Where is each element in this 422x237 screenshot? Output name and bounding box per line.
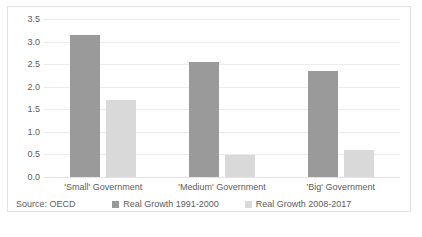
chart-legend: Real Growth 1991-2000Real Growth 2008-20… (76, 200, 402, 209)
bar[interactable] (106, 100, 136, 177)
bar[interactable] (344, 150, 374, 177)
x-tick-label: 'Big' Government (281, 179, 400, 195)
plot-wrapper: 0.00.51.01.52.02.53.03.5 'Small' Governm… (8, 7, 410, 211)
bar[interactable] (225, 155, 255, 177)
y-tick-label: 1.0 (14, 127, 40, 136)
y-tick-label: 1.5 (14, 105, 40, 114)
legend-item[interactable]: Real Growth 2008-2017 (245, 200, 352, 209)
bar[interactable] (308, 71, 338, 177)
bar-group (163, 19, 282, 177)
bar-group (44, 19, 163, 177)
y-tick-label: 0.0 (14, 173, 40, 182)
legend-swatch-icon (112, 201, 119, 208)
legend-item[interactable]: Real Growth 1991-2000 (112, 200, 219, 209)
x-axis: 'Small' Government'Medium' Government'Bi… (44, 179, 400, 195)
plot-area (44, 19, 400, 177)
y-tick-label: 3.0 (14, 37, 40, 46)
legend-label: Real Growth 1991-2000 (123, 200, 219, 209)
chart-container: 0.00.51.01.52.02.53.03.5 'Small' Governm… (7, 6, 411, 212)
chart-footer: Source: OECD Real Growth 1991-2000Real G… (16, 196, 402, 212)
source-note: Source: OECD (16, 199, 76, 209)
y-tick-label: 0.5 (14, 150, 40, 159)
y-tick-label: 2.5 (14, 60, 40, 69)
bar-group (281, 19, 400, 177)
legend-swatch-icon (245, 201, 252, 208)
y-tick-label: 3.5 (14, 15, 40, 24)
y-tick-label: 2.0 (14, 82, 40, 91)
x-tick-label: 'Medium' Government (163, 179, 282, 195)
bar[interactable] (70, 35, 100, 177)
bar-groups (44, 19, 400, 177)
gridline (44, 177, 400, 178)
x-tick-label: 'Small' Government (44, 179, 163, 195)
y-axis: 0.00.51.01.52.02.53.03.5 (14, 19, 40, 177)
bar[interactable] (189, 62, 219, 177)
legend-label: Real Growth 2008-2017 (256, 200, 352, 209)
